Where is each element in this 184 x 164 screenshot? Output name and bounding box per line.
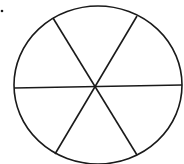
sector-dividers <box>14 16 182 155</box>
circle-six-sectors-diagram <box>0 0 184 164</box>
horizontal-diameter <box>14 85 182 88</box>
diagonal-diameter-b <box>55 16 137 154</box>
marker-dot <box>1 10 4 13</box>
